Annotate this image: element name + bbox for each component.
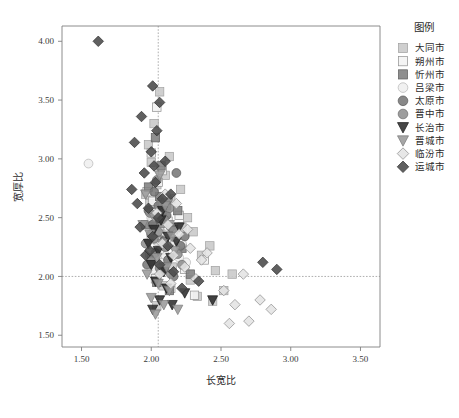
data-point: [244, 316, 255, 327]
data-point: [228, 270, 236, 278]
legend-label: 大同市: [415, 42, 445, 53]
data-point: [132, 198, 143, 209]
data-point: [183, 213, 191, 221]
data-point: [84, 159, 93, 168]
legend-marker-运城市: [397, 161, 409, 173]
y-tick-label: 1.50: [38, 330, 54, 340]
y-tick-label: 3.00: [38, 154, 54, 164]
data-points-group: [84, 36, 282, 329]
data-point: [238, 269, 249, 280]
legend-label: 吕梁市: [415, 82, 445, 93]
legend-marker-临汾市: [397, 148, 409, 160]
data-point: [211, 266, 219, 274]
legend-label: 太原市: [415, 95, 445, 106]
legend-label: 朔州市: [415, 56, 445, 67]
x-tick-label: 3.50: [353, 354, 369, 364]
data-point: [230, 299, 241, 310]
legend-marker-太原市: [398, 96, 408, 106]
legend-label: 晋城市: [415, 135, 445, 146]
legend-marker-晋城市: [397, 136, 408, 146]
legend-label: 忻州市: [415, 69, 445, 80]
legend-marker-大同市: [398, 43, 407, 52]
data-point: [155, 88, 163, 96]
data-point: [136, 111, 147, 122]
data-point: [255, 295, 266, 306]
x-axis-title: 长宽比: [206, 374, 236, 386]
data-point: [266, 304, 277, 315]
legend-marker-忻州市: [398, 70, 407, 79]
y-axis-title: 宽厚比: [12, 172, 24, 202]
legend-label: 晋中市: [415, 108, 445, 119]
x-tick-label: 2.00: [143, 354, 159, 364]
data-point: [258, 257, 269, 268]
data-point: [190, 291, 198, 299]
x-tick-label: 1.50: [74, 354, 90, 364]
data-point: [172, 169, 181, 178]
data-point: [129, 137, 140, 148]
data-point: [126, 184, 137, 195]
legend: 图例大同市朔州市忻州市吕梁市太原市晋中市长治市晋城市临汾市运城市: [389, 20, 459, 180]
data-point: [176, 185, 184, 193]
y-tick-label: 4.00: [38, 36, 54, 46]
legend-title: 图例: [414, 21, 434, 33]
y-tick-label: 3.50: [38, 95, 54, 105]
data-point: [173, 305, 183, 314]
data-point: [93, 36, 104, 47]
legend-label: 运城市: [415, 161, 445, 172]
data-point: [185, 243, 196, 254]
data-point: [150, 187, 159, 196]
legend-svg: 图例大同市朔州市忻州市吕梁市太原市晋中市长治市晋城市临汾市运城市: [389, 20, 459, 180]
legend-marker-晋中市: [398, 109, 408, 119]
data-point: [150, 310, 160, 319]
data-point: [272, 264, 283, 275]
x-tick-label: 3.00: [283, 354, 299, 364]
y-tick-label: 2.50: [38, 213, 54, 223]
data-point: [139, 168, 150, 179]
figure-container: 1.502.002.503.003.501.502.002.503.003.50…: [0, 0, 459, 418]
legend-marker-朔州市: [398, 57, 407, 66]
legend-label: 临汾市: [415, 148, 445, 159]
x-tick-label: 2.50: [213, 354, 229, 364]
legend-marker-吕梁市: [398, 83, 408, 93]
legend-marker-长治市: [397, 123, 408, 133]
data-point: [224, 318, 235, 329]
series-运城市: [93, 36, 282, 293]
y-tick-label: 2.00: [38, 272, 54, 282]
legend-label: 长治市: [415, 122, 445, 133]
